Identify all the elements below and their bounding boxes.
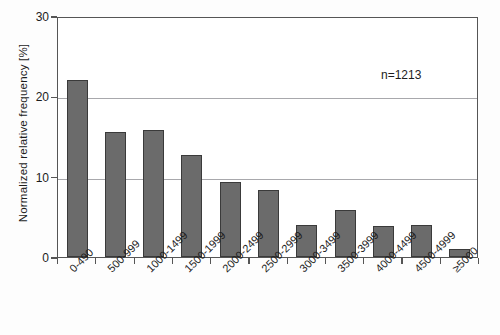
x-axis-tick <box>95 258 96 264</box>
x-axis-tick <box>325 258 326 264</box>
bar <box>258 190 279 257</box>
y-axis-label: 20 <box>15 91 49 103</box>
x-axis-tick <box>478 258 479 264</box>
y-axis-label: 10 <box>15 172 49 184</box>
x-axis-tick <box>401 258 402 264</box>
bar <box>220 182 241 257</box>
x-axis-tick <box>210 258 211 264</box>
x-axis-tick <box>440 258 441 264</box>
bar <box>143 130 164 257</box>
y-axis-title: Normalized relative frequency [%] <box>12 4 34 262</box>
plot-area <box>57 17 478 258</box>
y-axis-label-wrap: 20 <box>0 91 49 103</box>
x-axis-tick <box>134 258 135 264</box>
y-axis-label: 30 <box>15 11 49 23</box>
x-axis-tick <box>248 258 249 264</box>
x-axis-tick <box>363 258 364 264</box>
y-axis-label-wrap: 30 <box>0 11 49 23</box>
bar <box>105 132 126 257</box>
y-axis-label: 0 <box>15 252 49 264</box>
y-axis-label-wrap: 0 <box>0 252 49 264</box>
gridline <box>58 98 477 99</box>
bar <box>67 80 88 257</box>
x-axis-tick <box>287 258 288 264</box>
sample-size-annotation: n=1213 <box>381 68 421 82</box>
x-axis-tick <box>172 258 173 264</box>
y-axis-label-wrap: 10 <box>0 172 49 184</box>
chart-figure: Normalized relative frequency [%] 010203… <box>0 0 500 335</box>
x-axis-tick <box>57 258 58 264</box>
